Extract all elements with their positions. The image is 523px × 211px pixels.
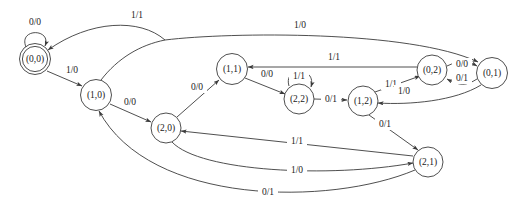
state-label: (2,2) [290, 94, 308, 105]
state-node[interactable]: (1,2) [348, 86, 378, 116]
states-layer: (0,0) (1,0) (2,0) (1,1) (2,2) (1,2) [20, 44, 508, 178]
state-label: (1,2) [354, 96, 372, 107]
transition-label: 1/1 [293, 71, 305, 81]
state-label: (1,1) [223, 64, 241, 75]
state-node[interactable]: (0,0) [20, 44, 51, 75]
transition-label: 1/1 [291, 136, 303, 146]
transition-label: 0/1 [456, 73, 468, 83]
transition-label: 1/1 [131, 10, 143, 20]
edge-s11-s22 [245, 78, 285, 94]
state-node[interactable]: (1,1) [217, 54, 248, 85]
state-machine-diagram: (0,0) (1,0) (2,0) (1,1) (2,2) (1,2) [0, 0, 523, 211]
transition-label: 1/0 [66, 65, 78, 75]
transition-label: 0/0 [261, 69, 273, 79]
transition-label: 1/1 [328, 52, 340, 62]
state-label: (2,0) [157, 123, 175, 134]
transition-label: 1/0 [398, 86, 410, 96]
edge-s10-s00-arc [48, 25, 165, 50]
transition-label: 0/1 [262, 187, 274, 197]
edge-s21-s10 [99, 111, 415, 192]
edge-s10-riser [101, 40, 165, 80]
transition-label: 0/0 [124, 97, 136, 107]
transition-label: 0/1 [325, 94, 337, 104]
transition-label: 0/1 [379, 119, 391, 129]
transition-label: 1/0 [294, 20, 306, 30]
state-node[interactable]: (0,2) [417, 55, 447, 85]
state-node[interactable]: (2,0) [151, 113, 181, 143]
transition-label: 0/0 [191, 82, 203, 92]
state-node[interactable]: (2,1) [413, 147, 443, 177]
state-label: (1,0) [87, 90, 105, 101]
state-label: (0,1) [483, 68, 501, 79]
state-label: (0,2) [423, 65, 441, 76]
fsm-canvas: (0,0) (1,0) (2,0) (1,1) (2,2) (1,2) [0, 0, 523, 211]
transition-label: 0/0 [456, 59, 468, 69]
state-label: (0,0) [26, 54, 44, 65]
transition-label: 0/0 [29, 17, 41, 27]
state-node[interactable]: (2,2) [284, 84, 314, 114]
state-node[interactable]: (1,0) [81, 80, 112, 111]
state-label: (2,1) [419, 157, 437, 168]
state-node[interactable]: (0,1) [477, 58, 508, 89]
transition-label: 1/0 [291, 165, 303, 175]
